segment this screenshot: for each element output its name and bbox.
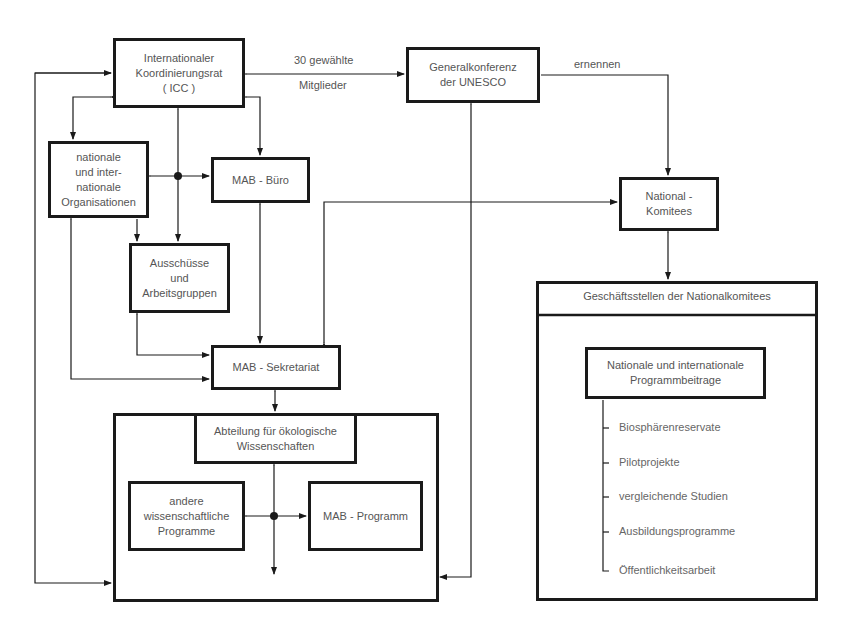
node-icc-label: Internationaler Koordinierungsrat ( ICC … xyxy=(136,51,223,96)
node-mab-program-label: MAB - Programm xyxy=(323,509,408,524)
node-ecology-division-label: Abteilung für ökologische Wissenschaften xyxy=(214,424,337,454)
node-committees-label: Ausschüsse und Arbeitsgruppen xyxy=(142,256,217,301)
node-mab-program: MAB - Programm xyxy=(308,481,423,551)
contribution-item: Pilotprojekte xyxy=(619,456,680,468)
node-national-organisations: nationale und inter- nationale Organisat… xyxy=(48,141,149,218)
national-offices-container xyxy=(536,281,818,601)
node-committees: Ausschüsse und Arbeitsgruppen xyxy=(129,243,230,313)
contribution-item: Öffentlichkeitsarbeit xyxy=(619,564,715,576)
node-mab-secretariat: MAB - Sekretariat xyxy=(211,345,341,390)
node-national-committees: National - Komitees xyxy=(619,177,719,231)
node-contributions: Nationale und internationale Programmbei… xyxy=(585,347,766,399)
node-other-programs: andere wissenschaftliche Programme xyxy=(128,481,245,551)
contribution-item: vergleichende Studien xyxy=(619,490,728,502)
node-contributions-label: Nationale und internationale Programmbei… xyxy=(607,358,744,388)
node-other-programs-label: andere wissenschaftliche Programme xyxy=(144,494,230,539)
node-mab-buero: MAB - Büro xyxy=(211,157,310,203)
node-mab-secretariat-label: MAB - Sekretariat xyxy=(233,360,320,375)
node-national-organisations-label: nationale und inter- nationale Organisat… xyxy=(61,150,136,210)
node-ecology-division: Abteilung für ökologische Wissenschaften xyxy=(194,413,357,464)
contribution-item: Ausbildungsprogramme xyxy=(619,525,735,537)
national-offices-header: Geschäftsstellen der Nationalkomitees xyxy=(536,290,818,302)
edge-label-appoint: ernennen xyxy=(574,58,621,70)
edge-label-elected-members-top: 30 gewählte xyxy=(294,54,353,66)
contribution-item: Biosphärenreservate xyxy=(619,421,721,433)
node-national-committees-label: National - Komitees xyxy=(645,189,692,219)
edge-label-elected-members-bottom: Mitglieder xyxy=(299,79,347,91)
hub-dot-top xyxy=(174,172,182,180)
node-icc: Internationaler Koordinierungsrat ( ICC … xyxy=(113,38,245,108)
node-general-conference-label: Generalkonferenz der UNESCO xyxy=(429,60,516,90)
node-general-conference: Generalkonferenz der UNESCO xyxy=(406,47,540,103)
node-mab-buero-label: MAB - Büro xyxy=(232,173,289,188)
